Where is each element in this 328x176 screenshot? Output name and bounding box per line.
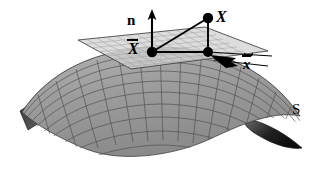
point-xbar-label: X: [128, 41, 139, 57]
tangent-direction-label: x: [243, 57, 251, 72]
point-x-label: X: [216, 9, 227, 25]
surface-label: S: [292, 102, 300, 117]
hat-accent-icon: [244, 52, 253, 57]
normal-vector-label: n: [127, 13, 135, 28]
surface-fold-right: [243, 120, 302, 148]
figure-root: n X X x S: [0, 0, 328, 176]
xbar-point-marker: [147, 47, 157, 57]
point-xbar-label-text: X: [128, 41, 139, 57]
geometry-canvas: [0, 0, 328, 176]
foot-point-marker: [203, 47, 213, 57]
x-point-marker: [203, 13, 213, 23]
tangent-direction-label-text: x: [243, 56, 251, 72]
